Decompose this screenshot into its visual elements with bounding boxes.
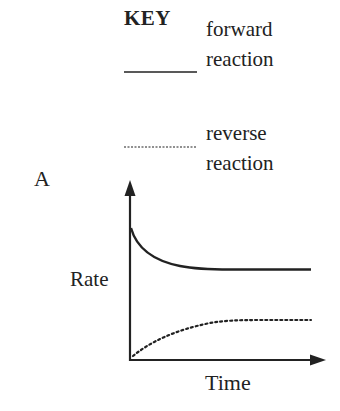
legend-forward-line1: forward	[206, 14, 274, 44]
y-axis-label: Rate	[70, 267, 108, 292]
reverse-reaction-curve	[133, 320, 311, 356]
legend-forward-line2: reaction	[206, 44, 274, 74]
legend-reverse-line2: reaction	[206, 148, 274, 178]
legend-forward-label: forward reaction	[206, 14, 274, 74]
x-axis-label: Time	[205, 370, 251, 396]
forward-reaction-curve	[131, 228, 311, 270]
legend-reverse-line1: reverse	[206, 118, 274, 148]
axes	[125, 180, 327, 366]
x-axis-arrow-icon	[310, 355, 326, 366]
y-axis-arrow-icon	[125, 180, 136, 196]
panel-label: A	[34, 166, 50, 192]
legend-reverse-label: reverse reaction	[206, 118, 274, 178]
chart-canvas	[0, 0, 340, 411]
